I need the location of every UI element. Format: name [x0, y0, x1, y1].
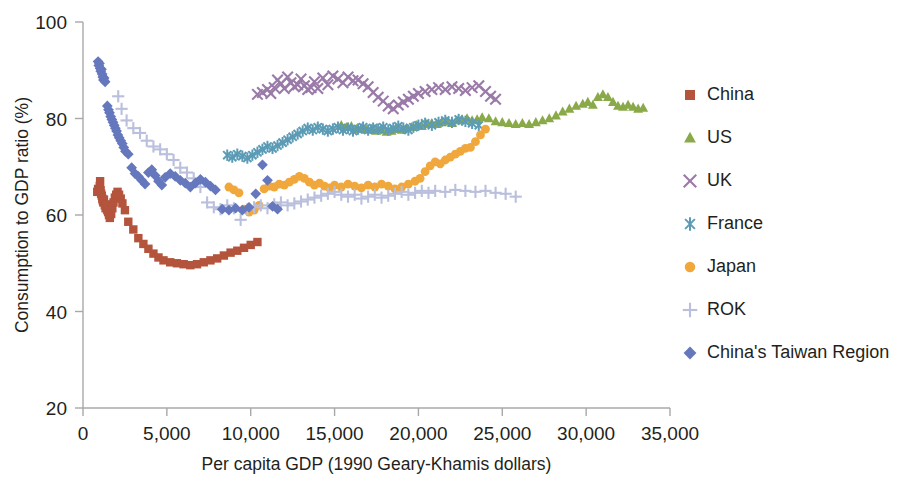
legend-label: China's Taiwan Region	[707, 342, 889, 362]
x-tick-label: 15,000	[306, 423, 364, 444]
data-point	[124, 218, 132, 226]
y-tick-label: 100	[35, 12, 67, 33]
legend-item-us[interactable]: US	[684, 127, 732, 147]
series-japan	[225, 125, 490, 217]
legend-marker	[684, 175, 697, 188]
x-axis-title: Per capita GDP (1990 Geary-Khamis dollar…	[202, 454, 552, 474]
legend-marker	[685, 90, 695, 100]
data-point	[235, 188, 244, 197]
data-point	[235, 214, 247, 226]
data-point	[342, 191, 354, 203]
data-point	[362, 191, 374, 203]
data-point	[375, 192, 387, 204]
data-point	[422, 187, 434, 199]
data-point	[490, 94, 501, 105]
series-uk	[252, 71, 501, 114]
data-point	[439, 186, 451, 198]
legend-item-rok[interactable]: ROK	[683, 299, 746, 319]
x-tick-label: 10,000	[222, 423, 280, 444]
data-point	[479, 185, 491, 197]
legend-item-france[interactable]: France	[685, 213, 763, 233]
legend-item-japan[interactable]: Japan	[685, 256, 756, 276]
y-axis-title: Consumption to GDP ratio (%)	[12, 97, 32, 333]
legend-item-uk[interactable]: UK	[684, 170, 732, 190]
data-point	[121, 114, 133, 126]
x-tick-label: 20,000	[389, 423, 447, 444]
x-tick-label: 35,000	[641, 423, 699, 444]
data-point	[484, 113, 494, 122]
data-point	[500, 188, 512, 200]
data-point	[416, 185, 428, 197]
y-tick-label: 20	[46, 398, 67, 419]
data-point	[253, 238, 261, 246]
y-tick-label: 60	[46, 205, 67, 226]
data-point	[315, 190, 327, 202]
x-tick-label: 5,000	[143, 423, 191, 444]
data-point	[302, 193, 314, 205]
scatter-chart: 2040608010005,00010,00015,00020,00025,00…	[0, 0, 902, 479]
data-point	[295, 195, 307, 207]
data-point	[369, 189, 381, 201]
legend-marker	[684, 347, 697, 360]
x-tick-label: 25,000	[473, 423, 531, 444]
legend-marker	[684, 132, 696, 143]
legend-marker	[685, 262, 696, 273]
series-rok	[112, 90, 522, 226]
y-tick-label: 80	[46, 109, 67, 130]
legend-label: US	[707, 127, 732, 147]
data-point	[409, 187, 421, 199]
y-tick-label: 40	[46, 302, 67, 323]
legend-label: Japan	[707, 256, 756, 276]
data-point	[147, 140, 159, 152]
data-point	[112, 90, 124, 102]
data-point	[510, 191, 522, 203]
legend-marker	[683, 303, 698, 318]
data-point	[96, 177, 104, 185]
data-point	[282, 199, 294, 211]
data-point	[335, 189, 347, 201]
data-point	[481, 125, 490, 134]
data-point	[141, 135, 153, 147]
data-point	[288, 197, 300, 209]
data-point	[308, 192, 320, 204]
legend-label: China	[707, 84, 755, 104]
data-point	[121, 206, 129, 214]
legend-label: ROK	[707, 299, 746, 319]
legend-label: France	[707, 213, 763, 233]
legend-marker	[685, 217, 695, 231]
legend-item-china[interactable]: China	[685, 84, 755, 104]
data-point	[257, 159, 268, 170]
x-tick-label: 0	[78, 423, 89, 444]
x-tick-label: 30,000	[557, 423, 615, 444]
legend-item-china-s-taiwan-region[interactable]: China's Taiwan Region	[684, 342, 890, 362]
data-point	[115, 103, 127, 115]
data-point	[250, 188, 261, 199]
data-point	[167, 154, 179, 166]
legend-label: UK	[707, 170, 732, 190]
data-point	[129, 225, 137, 233]
plot-area: 2040608010005,00010,00015,00020,00025,00…	[0, 0, 902, 479]
